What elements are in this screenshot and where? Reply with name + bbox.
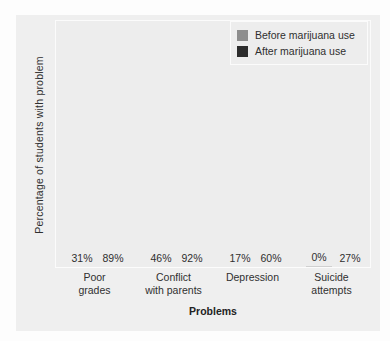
x-tick-poor-grades: Poor grades bbox=[55, 271, 134, 297]
x-tick-line-1: Conflict bbox=[134, 271, 213, 284]
y-axis-title: Percentage of students with problem bbox=[33, 40, 45, 250]
bar-value-suicide-attempts-before: 0% bbox=[311, 251, 326, 263]
legend-label-after: After marijuana use bbox=[255, 45, 346, 57]
bar-value-poor-grades-before: 31% bbox=[71, 252, 92, 264]
x-tick-line-2: attempts bbox=[292, 284, 371, 297]
x-tick-line-1: Suicide bbox=[292, 271, 371, 284]
legend-label-before: Before marijuana use bbox=[255, 29, 355, 41]
x-tick-line-1: Poor bbox=[55, 271, 134, 284]
legend-item-before[interactable]: Before marijuana use bbox=[237, 27, 361, 43]
bar-value-conflict-with-parents-after: 92% bbox=[181, 252, 202, 264]
bar-value-poor-grades-after: 89% bbox=[102, 252, 123, 264]
x-axis-tick-labels: Poor grades Conflict with parents Depres… bbox=[55, 271, 371, 305]
x-tick-line-2: with parents bbox=[134, 284, 213, 297]
chart-figure: Percentage of students with problem 31% … bbox=[0, 0, 390, 341]
chart-legend: Before marijuana use After marijuana use bbox=[230, 21, 368, 65]
bar-value-depression-after: 60% bbox=[260, 252, 281, 264]
bar-rect-before bbox=[306, 266, 332, 267]
x-tick-line-2: grades bbox=[55, 284, 134, 297]
bar-group-poor-grades: 31% 89% bbox=[55, 20, 134, 267]
bar-group-conflict-with-parents: 46% 92% bbox=[134, 20, 213, 267]
bar-value-suicide-attempts-after: 27% bbox=[339, 252, 360, 264]
x-axis-title: Problems bbox=[55, 305, 371, 317]
x-tick-depression: Depression bbox=[213, 271, 292, 284]
x-tick-line-1: Depression bbox=[213, 271, 292, 284]
legend-swatch-icon-after bbox=[237, 46, 248, 57]
bar-value-depression-before: 17% bbox=[229, 252, 250, 264]
x-tick-conflict-with-parents: Conflict with parents bbox=[134, 271, 213, 297]
x-tick-suicide-attempts: Suicide attempts bbox=[292, 271, 371, 297]
x-axis-baseline bbox=[55, 267, 371, 268]
legend-swatch-icon-before bbox=[237, 30, 248, 41]
legend-item-after[interactable]: After marijuana use bbox=[237, 43, 361, 59]
bar-value-conflict-with-parents-before: 46% bbox=[150, 252, 171, 264]
